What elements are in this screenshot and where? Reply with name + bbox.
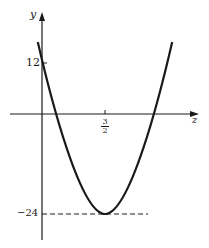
y-tick-label-12: 12 (26, 56, 40, 69)
y-axis-label: y (30, 8, 36, 21)
fraction-denominator: 2 (102, 126, 107, 135)
x-axis-label: z (192, 114, 197, 125)
x-tick-label-3-2: 3 2 (100, 118, 110, 135)
y-axis-arrow-icon (39, 12, 45, 21)
y-tick-label-neg24: −24 (17, 207, 38, 218)
fraction-numerator: 3 (102, 117, 107, 126)
